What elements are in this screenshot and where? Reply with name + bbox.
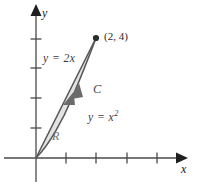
parabola-equation-base: y = x <box>88 111 114 123</box>
curve-label-c: C <box>93 83 101 96</box>
parabola-equation-label: y = x2 <box>88 110 119 123</box>
math-figure: y x y = 2x y = x2 C R (2, 4) <box>0 0 198 187</box>
point-marker-2-4 <box>93 35 99 41</box>
x-axis-label: x <box>181 163 186 175</box>
line-equation-label: y = 2x <box>43 53 75 65</box>
y-axis-label: y <box>42 7 47 19</box>
point-label-2-4: (2, 4) <box>104 31 128 42</box>
y-axis-arrowhead <box>31 4 42 16</box>
parabola-equation-exponent: 2 <box>114 109 119 118</box>
region-label-r: R <box>52 130 59 142</box>
